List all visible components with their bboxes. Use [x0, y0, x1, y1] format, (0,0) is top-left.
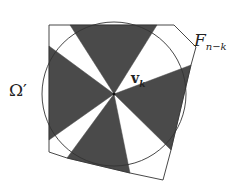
diagram-figure: [0, 0, 236, 192]
face-label-sub: n−k: [206, 41, 227, 52]
face-label: Fn−k: [194, 30, 227, 52]
vertex-label: vk: [131, 70, 145, 89]
diagram: Ω′ Fn−k vk: [0, 0, 236, 192]
vertex-point: [113, 93, 116, 96]
vertex-label-main: v: [131, 70, 139, 86]
vertex-label-sub: k: [139, 79, 145, 89]
omega-label: Ω′: [9, 80, 27, 100]
sector-right: [114, 65, 191, 150]
face-label-main: F: [194, 30, 206, 50]
